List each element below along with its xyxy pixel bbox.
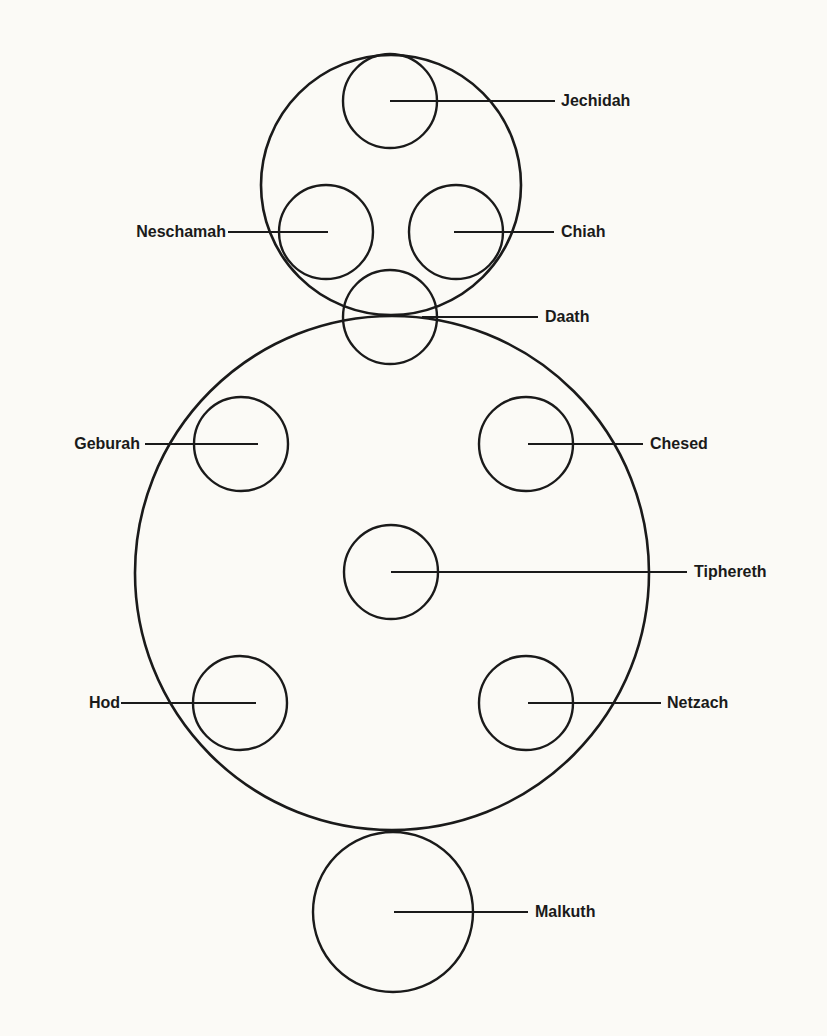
label-netzach: Netzach	[667, 694, 728, 712]
label-chiah: Chiah	[561, 223, 605, 241]
sephira-circles	[193, 54, 573, 992]
label-tiphereth: Tiphereth	[694, 563, 767, 581]
label-daath: Daath	[545, 308, 589, 326]
label-jechidah: Jechidah	[561, 92, 630, 110]
upper-circle	[261, 55, 521, 315]
label-geburah: Geburah	[74, 435, 140, 453]
label-hod: Hod	[89, 694, 120, 712]
label-chesed: Chesed	[650, 435, 708, 453]
label-malkuth: Malkuth	[535, 903, 595, 921]
label-neschamah: Neschamah	[136, 223, 226, 241]
tree-of-life-diagram	[0, 0, 827, 1036]
